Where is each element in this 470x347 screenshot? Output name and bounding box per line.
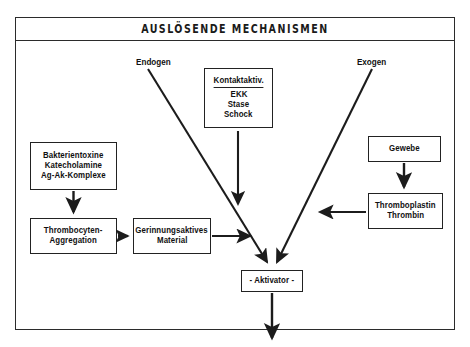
node-aktivator: - Aktivator - <box>241 270 303 292</box>
label-exogen: Exogen <box>357 57 386 67</box>
node-bakterientoxine: Bakterientoxine Katecholamine Ag-Ak-Komp… <box>30 142 117 190</box>
node-kontaktaktiv: Kontaktaktiv. EKK Stase Schock <box>204 68 273 128</box>
label-endogen: Endogen <box>136 57 171 67</box>
node-header: Kontaktaktiv. <box>213 76 263 88</box>
page-title: AUSLÖSENDE MECHANISMEN <box>141 22 328 36</box>
node-line: Ag-Ak-Komplexe <box>41 171 106 181</box>
diagram-canvas: AUSLÖSENDE MECHANISMEN Endogen Exogen Ba… <box>0 0 470 347</box>
node-line: Gewebe <box>389 144 420 154</box>
node-thrombocyten-aggregation: Thrombocyten- Aggregation <box>30 218 117 254</box>
node-line: Schock <box>224 110 253 120</box>
node-thromboplastin-thrombin: Thromboplastin Thrombin <box>368 193 443 229</box>
node-gewebe: Gewebe <box>368 136 441 162</box>
diagram-title-bar: AUSLÖSENDE MECHANISMEN <box>15 17 455 41</box>
node-line: Thrombin <box>387 211 424 221</box>
node-gerinnungsaktives-material: Gerinnungsaktives Material <box>133 218 211 254</box>
node-line: Material <box>157 236 188 246</box>
node-line: - Aktivator - <box>250 276 295 286</box>
node-line: Aggregation <box>50 236 97 246</box>
